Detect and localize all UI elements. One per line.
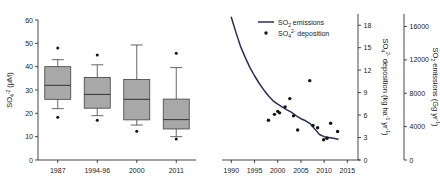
deposition-point: [288, 97, 291, 100]
deposition-axis-tick-label: 9: [364, 89, 368, 96]
deposition-point: [267, 119, 270, 122]
boxplot-box: [84, 77, 110, 108]
deposition-axis-tick-label: 12: [364, 67, 372, 74]
boxplot-outlier-point: [96, 54, 99, 57]
deposition-axis-tick-label: 15: [364, 44, 372, 51]
emissions-axis-title: SO2 emissions (Gg yr-1): [430, 48, 440, 127]
boxplot-box: [163, 99, 189, 129]
boxplot-y-tick-label: 40: [25, 63, 33, 70]
boxplot-x-tick-label: 1994-96: [84, 167, 110, 174]
deposition-point: [292, 114, 295, 117]
deposition-point: [336, 130, 339, 133]
deposition-point: [278, 111, 281, 114]
figure-container: 0102030405060SO4-2 (μM)19871994-96200020…: [0, 0, 440, 195]
timeseries-x-tick-label: 2010: [316, 167, 332, 174]
boxplot-outlier-point: [175, 138, 178, 141]
deposition-point: [311, 124, 314, 127]
boxplot-x-tick-label: 2000: [129, 167, 145, 174]
emissions-axis-tick-label: 0: [410, 157, 414, 164]
timeseries-x-tick-label: 1990: [223, 167, 239, 174]
deposition-axis-tick-label: 0: [364, 157, 368, 164]
legend-label-deposition: SO42- deposition: [278, 28, 329, 39]
legend-point-swatch: [264, 31, 267, 34]
boxplot-box-group: [84, 54, 110, 122]
timeseries-x-tick-label: 2000: [270, 167, 286, 174]
boxplot-y-tick-label: 50: [25, 40, 33, 47]
deposition-point: [322, 138, 325, 141]
deposition-point: [325, 137, 328, 140]
boxplot-y-tick-label: 60: [25, 17, 33, 24]
boxplot-outlier-point: [96, 119, 99, 122]
emissions-axis-tick-label: 4000: [410, 123, 426, 130]
deposition-point: [329, 122, 332, 125]
boxplot-box: [45, 67, 71, 100]
boxplot-y-tick-label: 0: [29, 157, 33, 164]
boxplot-y-tick-label: 30: [25, 87, 33, 94]
deposition-point: [296, 128, 299, 131]
figure-svg: 0102030405060SO4-2 (μM)19871994-96200020…: [0, 0, 440, 195]
timeseries-x-tick-label: 2005: [293, 167, 309, 174]
deposition-point: [316, 126, 319, 129]
emissions-axis-tick-label: 16000: [410, 23, 430, 30]
boxplot-outlier-point: [175, 52, 178, 55]
boxplot-outlier-point: [56, 116, 59, 119]
deposition-point: [273, 113, 276, 116]
deposition-axis-tick-label: 3: [364, 134, 368, 141]
deposition-point: [283, 105, 286, 108]
emissions-axis-tick-label: 8000: [410, 90, 426, 97]
deposition-axis-title: SO42- deposition (kg ha-1 yr-1): [380, 38, 391, 136]
boxplot-y-tick-label: 20: [25, 110, 33, 117]
deposition-axis-tick-label: 6: [364, 112, 368, 119]
boxplot-x-tick-label: 2011: [169, 167, 184, 174]
boxplot-box-group: [163, 52, 189, 141]
boxplot-y-tick-label: 10: [25, 133, 33, 140]
legend-label-emissions: SO2 emissions: [278, 19, 324, 28]
boxplot-outlier-point: [56, 47, 59, 50]
boxplot-box-group: [45, 47, 71, 119]
emissions-axis-tick-label: 12000: [410, 56, 430, 63]
boxplot-box-group: [124, 45, 150, 133]
boxplot-outlier-point: [135, 130, 138, 133]
timeseries-x-tick-label: 2015: [340, 167, 356, 174]
timeseries-x-tick-label: 1995: [247, 167, 263, 174]
deposition-point: [308, 79, 311, 82]
deposition-axis-tick-label: 18: [364, 22, 372, 29]
boxplot-x-tick-label: 1987: [50, 167, 66, 174]
boxplot-y-axis-title: SO4-2 (μM): [5, 72, 16, 108]
